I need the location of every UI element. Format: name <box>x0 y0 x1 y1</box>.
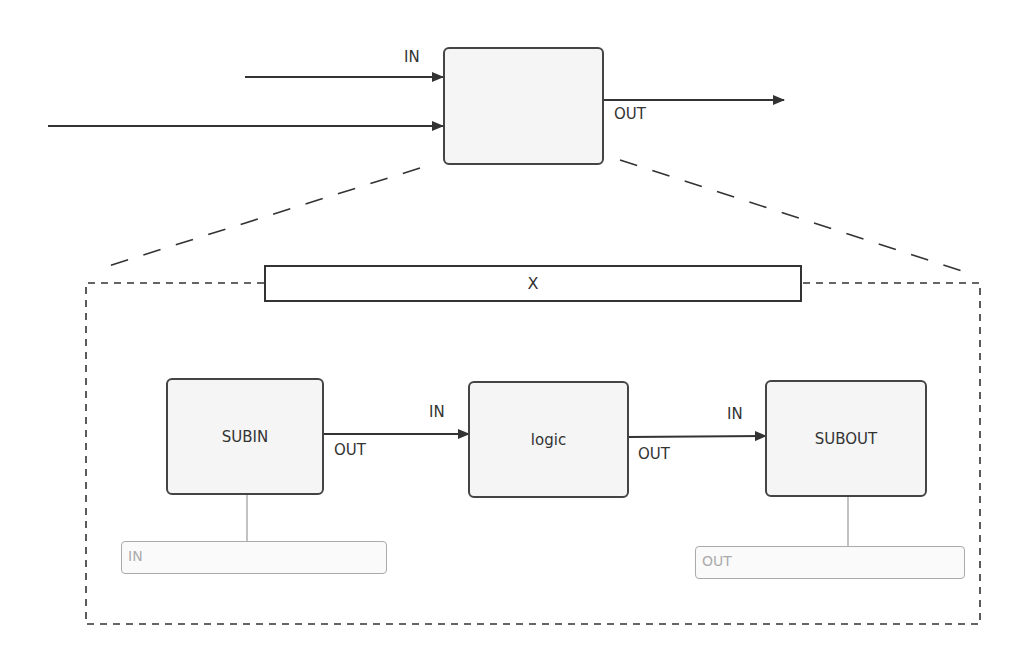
block-subin-label: SUBIN <box>222 428 268 446</box>
zoom-guide-right <box>620 160 965 272</box>
block-subout[interactable]: SUBOUT <box>765 380 927 497</box>
subsystem-title-text: X <box>528 274 539 293</box>
top-in-port-label: IN <box>404 48 420 66</box>
port-in-label: IN <box>128 548 143 564</box>
logic-out-label: OUT <box>638 445 670 463</box>
block-logic[interactable]: logic <box>468 381 629 498</box>
subout-in-label: IN <box>727 405 743 423</box>
block-subin[interactable]: SUBIN <box>166 378 324 495</box>
port-out-label: OUT <box>702 553 732 569</box>
subsystem-title[interactable]: X <box>264 265 802 302</box>
logic-in-label: IN <box>429 403 445 421</box>
top-block[interactable] <box>443 47 604 165</box>
subin-out-label: OUT <box>334 441 366 459</box>
block-logic-label: logic <box>531 431 566 449</box>
port-in[interactable]: IN <box>121 541 387 574</box>
block-subout-label: SUBOUT <box>815 430 877 448</box>
top-out-port-label: OUT <box>614 105 646 123</box>
diagram-canvas: IN OUT X SUBIN OUT logic IN OUT SUBOUT I… <box>0 0 1035 670</box>
logic-to-subout-arrow <box>628 436 766 437</box>
port-out[interactable]: OUT <box>695 546 965 579</box>
zoom-guide-left <box>102 168 420 268</box>
